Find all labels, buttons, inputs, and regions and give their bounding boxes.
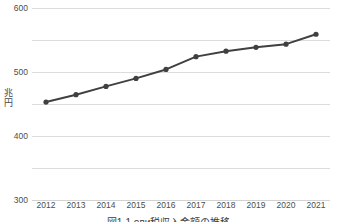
data-point-2013 xyxy=(73,92,78,97)
y-axis-label: 兆 円 xyxy=(2,88,14,108)
data-point-2012 xyxy=(43,99,48,104)
series-line xyxy=(46,34,316,102)
line-series xyxy=(32,8,330,200)
data-point-2017 xyxy=(193,54,198,59)
x-tick-label-2013: 2013 xyxy=(67,200,86,210)
x-tick-label-2012: 2012 xyxy=(37,200,56,210)
x-tick-label-2019: 2019 xyxy=(247,200,266,210)
x-tick-label-2016: 2016 xyxy=(157,200,176,210)
figure-caption: 図1-1 ови税収入金額の推移 xyxy=(0,214,337,222)
data-point-2020 xyxy=(283,42,288,47)
x-tick-label-2017: 2017 xyxy=(187,200,206,210)
x-tick-label-2021: 2021 xyxy=(307,200,326,210)
y-tick-label-500: 500 xyxy=(0,67,28,77)
chart-container: 兆 円 0100200300400500600 2012201320142015… xyxy=(0,0,337,222)
data-point-2019 xyxy=(253,45,258,50)
y-tick-label-300: 300 xyxy=(0,195,28,205)
x-tick-label-2020: 2020 xyxy=(277,200,296,210)
y-axis-label-char-1: 兆 xyxy=(2,88,14,98)
data-point-2021 xyxy=(313,32,318,37)
x-tick-label-2018: 2018 xyxy=(217,200,236,210)
x-tick-label-2015: 2015 xyxy=(127,200,146,210)
y-tick-label-400: 400 xyxy=(0,131,28,141)
data-point-2014 xyxy=(103,84,108,89)
x-axis-labels: 2012201320142015201620172018201920202021 xyxy=(32,200,330,214)
y-tick-label-600: 600 xyxy=(0,3,28,13)
data-point-2015 xyxy=(133,76,138,81)
x-tick-label-2014: 2014 xyxy=(97,200,116,210)
y-axis-label-char-2: 円 xyxy=(2,98,14,108)
data-point-2018 xyxy=(223,49,228,54)
plot-area: 0100200300400500600 xyxy=(32,8,330,200)
data-point-2016 xyxy=(163,67,168,72)
